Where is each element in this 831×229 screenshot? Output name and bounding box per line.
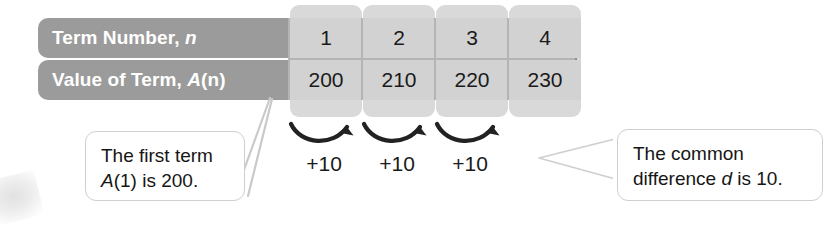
callout-first-term-line1: The first term bbox=[101, 143, 231, 168]
callout-common-difference: The common difference d is 10. bbox=[617, 129, 823, 201]
callout-first-term: The first term A(1) is 200. bbox=[85, 131, 245, 201]
callout-common-difference-prefix: difference bbox=[633, 168, 721, 189]
row-header-term-number-variable: n bbox=[185, 27, 197, 48]
step-label-2: +10 bbox=[361, 152, 433, 176]
diagram-canvas: Term Number, n Value of Term, A(n) 1 2 3… bbox=[0, 0, 831, 229]
cell-term-value-4: 230 bbox=[509, 60, 581, 100]
cell-term-value-2: 210 bbox=[363, 60, 435, 100]
cell-term-number-1: 1 bbox=[290, 18, 362, 58]
callout-first-term-line2: A(1) is 200. bbox=[101, 168, 231, 193]
row-divider bbox=[288, 58, 575, 60]
cell-term-value-3: 220 bbox=[436, 60, 508, 100]
callout-common-difference-line1: The common bbox=[633, 141, 809, 166]
step-label-3: +10 bbox=[434, 152, 506, 176]
callout-common-difference-line2: difference d is 10. bbox=[633, 166, 809, 191]
leader-line-first-term bbox=[230, 96, 340, 202]
row-header-value-of-term: Value of Term, A(n) bbox=[52, 60, 226, 100]
callout-first-term-function: A bbox=[101, 170, 114, 191]
callout-common-difference-suffix: is 10. bbox=[732, 168, 783, 189]
row-header-value-of-term-function: A bbox=[187, 69, 201, 90]
row-header-term-number: Term Number, n bbox=[52, 18, 197, 58]
callout-first-term-rest: (1) is 200. bbox=[114, 170, 198, 191]
cell-term-number-3: 3 bbox=[436, 18, 508, 58]
pointer-common-difference bbox=[537, 136, 623, 188]
cell-term-number-4: 4 bbox=[509, 18, 581, 58]
row-header-value-of-term-text: Value of Term, bbox=[52, 69, 187, 90]
row-header-term-number-text: Term Number, bbox=[52, 27, 185, 48]
row-divider-band bbox=[38, 58, 288, 60]
cell-term-value-1: 200 bbox=[290, 60, 362, 100]
callout-common-difference-variable: d bbox=[721, 168, 732, 189]
cell-term-number-2: 2 bbox=[363, 18, 435, 58]
scan-artifact bbox=[0, 170, 45, 229]
row-header-value-of-term-arg: (n) bbox=[201, 69, 226, 90]
